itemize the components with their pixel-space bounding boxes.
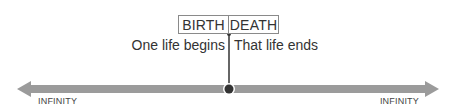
right-infinity-label: INFINITY	[380, 96, 419, 106]
birth-label: BIRTH	[179, 16, 229, 33]
birth-death-box: BIRTH DEATH	[178, 15, 279, 34]
caption-life-begins: One life begins	[132, 37, 225, 53]
left-arrowhead-icon	[17, 81, 31, 97]
left-infinity-label: INFINITY	[38, 96, 77, 106]
right-arrowhead-icon	[425, 81, 439, 97]
death-label: DEATH	[229, 16, 278, 33]
caption-life-ends: That life ends	[234, 37, 318, 53]
marker-dot-icon	[225, 85, 234, 94]
